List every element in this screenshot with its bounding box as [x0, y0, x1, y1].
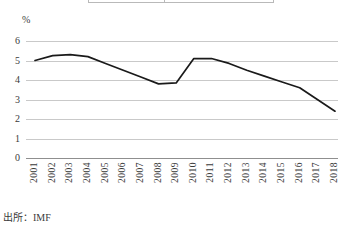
- x-tick-2017: 2017: [312, 162, 322, 183]
- x-tick-2015: 2015: [277, 162, 287, 183]
- x-tick-2004: 2004: [83, 162, 93, 183]
- x-tick-2007: 2007: [136, 162, 146, 183]
- x-tick-2016: 2016: [295, 162, 305, 183]
- x-tick-2009: 2009: [171, 162, 181, 183]
- x-tick-2003: 2003: [65, 162, 75, 183]
- x-tick-2001: 2001: [30, 162, 40, 183]
- x-tick-2002: 2002: [48, 162, 58, 183]
- x-tick-2018: 2018: [330, 162, 340, 183]
- x-tick-2010: 2010: [189, 162, 199, 183]
- x-tick-2012: 2012: [224, 162, 234, 183]
- x-tick-2014: 2014: [259, 162, 269, 183]
- x-tick-2006: 2006: [118, 162, 128, 183]
- chart-figure: % 6 5 4 3 2 1 0 200120022003200420052006…: [0, 0, 364, 232]
- x-tick-2013: 2013: [242, 162, 252, 183]
- x-axis-labels: 2001200220032004200520062007200820092010…: [0, 0, 364, 232]
- x-tick-2008: 2008: [154, 162, 164, 183]
- x-tick-2005: 2005: [101, 162, 111, 183]
- source-note: 出所：IMF: [3, 209, 51, 224]
- x-tick-2011: 2011: [206, 162, 216, 183]
